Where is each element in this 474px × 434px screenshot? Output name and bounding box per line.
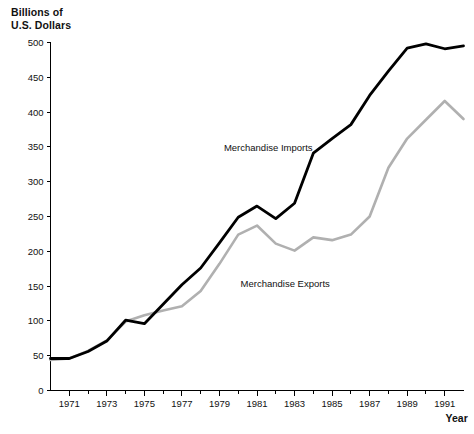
x-tick-label: 1985 [322,398,343,409]
y-axis-title: Billions of U.S. Dollars [11,6,71,31]
x-tick-label: 1981 [246,398,267,409]
x-tick-label: 1979 [209,398,230,409]
y-axis-title-line2: U.S. Dollars [11,19,71,31]
y-axis-title-line1: Billions of [11,6,63,18]
y-tick-label: 400 [28,107,44,118]
series-line-merchandise-exports [51,101,464,360]
y-tick-label: 0 [38,385,43,396]
chart-figure: Billions of U.S. Dollars Year 0501001502… [0,0,474,434]
y-tick-label: 250 [28,211,44,222]
y-tick-label: 450 [28,72,44,83]
y-tick-label: 200 [28,246,44,257]
x-tick-label: 1971 [59,398,80,409]
x-tick-label: 1987 [359,398,380,409]
y-tick-label: 350 [28,141,44,152]
y-tick-label: 300 [28,176,44,187]
series-label-merchandise-exports: Merchandise Exports [241,278,330,289]
y-tick-label: 50 [33,350,44,361]
series-label-merchandise-imports: Merchandise Imports [224,142,313,153]
x-tick-label: 1991 [434,398,455,409]
line-chart-plot: 050100150200250300350400450500 197119731… [0,0,474,434]
series-line-merchandise-imports [51,44,464,359]
x-tick-label: 1989 [397,398,418,409]
y-tick-label: 100 [28,315,44,326]
y-tick-label: 500 [28,37,44,48]
y-axis-ticks: 050100150200250300350400450500 [28,37,51,396]
y-tick-label: 150 [28,281,44,292]
x-tick-label: 1983 [284,398,305,409]
x-tick-label: 1975 [134,398,155,409]
x-tick-label: 1973 [96,398,117,409]
x-axis-title: Year [445,412,468,424]
x-tick-label: 1977 [171,398,192,409]
x-axis-ticks: 1971197319751977197919811983198519871989… [59,391,456,409]
